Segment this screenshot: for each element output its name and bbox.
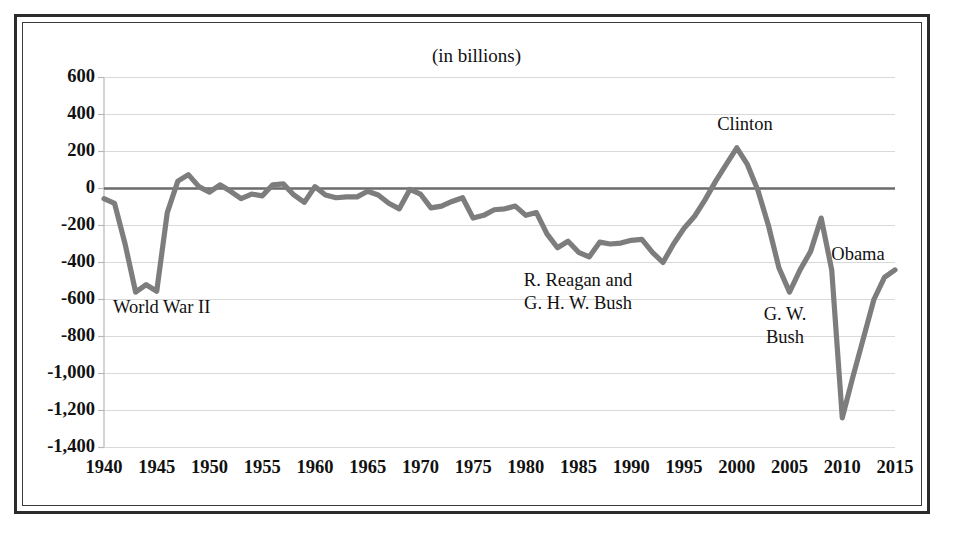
figure-root: (in billions) 6004002000-200-400-600-800… [0,0,953,543]
x-tick-label-1980: 1980 [496,457,556,478]
y-tick-label--400: -400 [61,251,95,272]
y-tick-label--200: -200 [61,214,95,235]
x-tick-label-1960: 1960 [285,457,345,478]
gw-bush-line-0: G. W. [740,303,830,326]
x-tick-label-1955: 1955 [232,457,292,478]
axes-group [98,78,104,448]
x-tick-label-1950: 1950 [179,457,239,478]
annotation-gw-bush: G. W.Bush [740,303,830,348]
x-tick-label-1995: 1995 [654,457,714,478]
y-tick-label-0: 0 [86,177,95,198]
reagan-bush-line-0: R. Reagan and [478,269,678,292]
y-tick-label--600: -600 [61,288,95,309]
annotation-world-war-ii: World War II [113,296,210,319]
ww2-line-0: World War II [113,296,210,319]
x-tick-label-1965: 1965 [338,457,398,478]
annotation-reagan-bush: R. Reagan andG. H. W. Bush [478,269,678,314]
y-tick-label--1,400: -1,400 [47,436,95,457]
x-tick-label-2000: 2000 [707,457,767,478]
obama-line-0: Obama [803,243,913,266]
x-tick-label-1970: 1970 [390,457,450,478]
x-tick-label-1975: 1975 [443,457,503,478]
annotation-clinton: Clinton [690,113,800,136]
reagan-bush-line-1: G. H. W. Bush [478,292,678,315]
y-tick-label--1,200: -1,200 [47,399,95,420]
x-tick-label-2005: 2005 [760,457,820,478]
y-tick-label--1,000: -1,000 [47,362,95,383]
x-tick-label-2010: 2010 [812,457,872,478]
x-tick-label-1940: 1940 [74,457,134,478]
clinton-line-0: Clinton [690,113,800,136]
y-tick-label-400: 400 [67,103,95,124]
chart-title: (in billions) [0,45,953,67]
gw-bush-line-1: Bush [740,326,830,349]
y-tick-label--800: -800 [61,325,95,346]
y-tick-label-200: 200 [67,140,95,161]
annotation-obama: Obama [803,243,913,266]
x-tick-label-1945: 1945 [127,457,187,478]
deficit-line-chart: (in billions) 6004002000-200-400-600-800… [0,0,953,543]
x-tick-label-1990: 1990 [601,457,661,478]
x-tick-label-1985: 1985 [549,457,609,478]
y-tick-label-600: 600 [67,66,95,87]
x-tick-label-2015: 2015 [865,457,925,478]
